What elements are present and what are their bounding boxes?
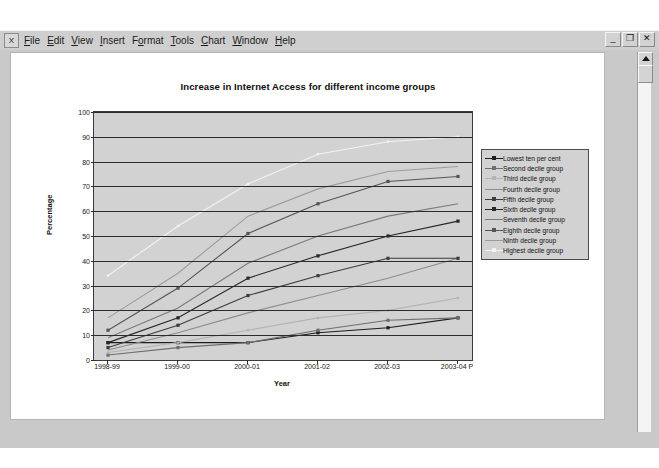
legend-entry[interactable]: Lowest ten per cent xyxy=(485,153,585,163)
menu-item-edit[interactable]: Edit xyxy=(47,35,64,47)
excel-icon[interactable]: X xyxy=(4,33,19,48)
y-axis-tick-label: 70 xyxy=(82,183,90,190)
y-axis-tick xyxy=(91,137,94,138)
series-marker xyxy=(177,341,179,343)
series-marker xyxy=(107,351,109,353)
menu-item-window[interactable]: Window xyxy=(232,35,268,47)
chart-object[interactable]: Increase in Internet Access for differen… xyxy=(33,81,583,406)
series-marker xyxy=(386,257,389,260)
menu-item-insert[interactable]: Insert xyxy=(100,35,125,47)
y-axis-tick xyxy=(91,112,94,113)
menu-item-tools[interactable]: Tools xyxy=(171,35,194,47)
legend-label: Highest decile group xyxy=(503,246,563,255)
x-axis-tick xyxy=(387,360,388,364)
legend-swatch-icon xyxy=(485,246,503,255)
y-axis-tick xyxy=(91,236,94,237)
series-marker xyxy=(316,329,319,332)
menu-item-chart[interactable]: Chart xyxy=(201,35,225,47)
legend-label: Fourth decile group xyxy=(503,185,560,194)
series-marker xyxy=(317,317,319,319)
chart-legend[interactable]: Lowest ten per centSecond decile groupTh… xyxy=(481,149,589,260)
gridline xyxy=(94,211,472,212)
series-marker xyxy=(107,274,109,276)
excel-application-window: X File Edit View Insert Format Tools Cha… xyxy=(0,30,659,448)
legend-swatch-icon xyxy=(485,185,503,194)
legend-entry[interactable]: Fourth decile group xyxy=(485,184,585,194)
y-axis-tick xyxy=(91,360,94,361)
y-axis-tick xyxy=(91,310,94,311)
series-marker xyxy=(247,329,249,331)
legend-entry[interactable]: Highest decile group xyxy=(485,246,585,256)
series-line xyxy=(108,137,458,276)
scrollbar-thumb[interactable] xyxy=(638,65,653,83)
series-marker xyxy=(317,153,319,155)
scroll-up-icon[interactable] xyxy=(638,52,653,66)
legend-label: Fifth decile group xyxy=(503,195,554,204)
legend-label: Lowest ten per cent xyxy=(503,154,561,163)
close-button[interactable]: ✕ xyxy=(639,32,655,47)
legend-entry[interactable]: Ninth decile group xyxy=(485,235,585,245)
y-axis-tick xyxy=(91,261,94,262)
x-axis-tick-label: 2001-02 xyxy=(304,363,330,370)
legend-label: Ninth decile group xyxy=(503,236,556,245)
x-axis-tick-label: 1998-99 xyxy=(94,363,120,370)
menu-item-view[interactable]: View xyxy=(71,35,93,47)
series-marker xyxy=(176,324,179,327)
legend-entry[interactable]: Sixth decile group xyxy=(485,204,585,214)
menu-item-help[interactable]: Help xyxy=(275,35,296,47)
gridline xyxy=(94,186,472,187)
y-axis-tick-label: 20 xyxy=(82,307,90,314)
legend-label: Second decile group xyxy=(503,164,563,173)
series-marker xyxy=(106,341,109,344)
series-marker xyxy=(106,329,109,332)
document-area: Increase in Internet Access for differen… xyxy=(0,50,659,448)
y-axis-tick-label: 50 xyxy=(82,233,90,240)
gridline xyxy=(94,137,472,138)
series-marker xyxy=(457,297,459,299)
series-line xyxy=(108,318,458,355)
menu-item-file[interactable]: File xyxy=(24,35,40,47)
legend-entry[interactable]: Fifth decile group xyxy=(485,194,585,204)
legend-entry[interactable]: Second decile group xyxy=(485,163,585,173)
series-marker xyxy=(456,316,459,319)
series-marker xyxy=(177,225,179,227)
gridline xyxy=(94,335,472,336)
series-marker xyxy=(246,341,249,344)
legend-swatch-icon xyxy=(485,164,503,173)
restore-button[interactable]: ❐ xyxy=(622,32,638,47)
x-axis-tick xyxy=(107,360,108,364)
legend-entry[interactable]: Third decile group xyxy=(485,174,585,184)
legend-swatch-icon xyxy=(485,195,503,204)
y-axis-tick-label: 60 xyxy=(82,208,90,215)
series-marker xyxy=(386,326,389,329)
series-marker xyxy=(246,294,249,297)
title-bar: X File Edit View Insert Format Tools Cha… xyxy=(0,30,659,51)
x-axis-tick xyxy=(457,360,458,364)
y-axis-label: Percentage xyxy=(45,195,54,235)
x-axis-tick xyxy=(317,360,318,364)
x-axis-label: Year xyxy=(93,379,471,388)
gridline xyxy=(94,236,472,237)
series-marker xyxy=(316,202,319,205)
y-axis-tick-label: 80 xyxy=(82,158,90,165)
x-axis-tick-label: 1999-00 xyxy=(164,363,190,370)
gridline xyxy=(94,162,472,163)
legend-swatch-icon xyxy=(485,226,503,235)
y-axis-tick-label: 0 xyxy=(86,357,90,364)
y-axis-tick-label: 10 xyxy=(82,332,90,339)
legend-swatch-icon xyxy=(485,174,503,183)
legend-label: Seventh decile group xyxy=(503,215,565,224)
chart-sheet[interactable]: Increase in Internet Access for differen… xyxy=(10,52,605,420)
legend-entry[interactable]: Eighth decile group xyxy=(485,225,585,235)
legend-entry[interactable]: Seventh decile group xyxy=(485,215,585,225)
menu-item-format[interactable]: Format xyxy=(132,35,164,47)
series-line xyxy=(108,318,458,343)
y-axis-tick-label: 30 xyxy=(82,282,90,289)
vertical-scrollbar[interactable] xyxy=(637,52,651,432)
menu-bar: File Edit View Insert Format Tools Chart… xyxy=(24,33,296,48)
series-marker xyxy=(386,180,389,183)
y-axis-tick-label: 90 xyxy=(82,133,90,140)
series-marker xyxy=(247,183,249,185)
minimize-button[interactable]: _ xyxy=(605,32,621,47)
legend-swatch-icon xyxy=(485,236,503,245)
